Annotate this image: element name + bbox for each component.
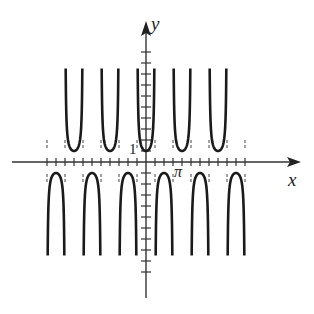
sec-graph-plot — [0, 0, 314, 314]
sec-branch — [102, 68, 119, 151]
y-axis-label: y — [151, 14, 159, 33]
sec-branch — [120, 173, 137, 256]
sec-branch — [174, 68, 191, 151]
sec-branch — [192, 173, 209, 256]
sec-branch — [210, 68, 227, 151]
sec-branch — [48, 173, 65, 256]
x-axis-label: x — [288, 170, 296, 189]
pi-label: π — [174, 164, 182, 180]
sec-branch — [84, 173, 101, 256]
sec-branch — [156, 173, 173, 256]
y-unit-label: 1 — [129, 142, 137, 157]
sec-branch — [228, 173, 245, 256]
sec-branch — [66, 68, 83, 151]
